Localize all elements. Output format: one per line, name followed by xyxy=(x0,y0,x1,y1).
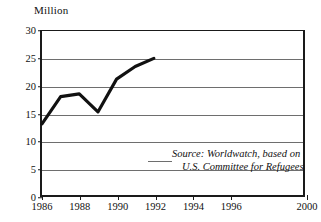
y-tick-label: 5 xyxy=(31,165,36,176)
x-tick-label: 1986 xyxy=(32,201,53,212)
x-tick-label: 1988 xyxy=(69,201,90,212)
y-tick-label: 15 xyxy=(26,109,37,120)
x-tick-mark xyxy=(156,195,157,200)
source-note: Source: Worldwatch, based on U.S. Commit… xyxy=(172,147,312,173)
refugees-series-polyline xyxy=(42,58,154,124)
y-tick-label: 25 xyxy=(26,54,37,65)
source-note-line-1: Source: Worldwatch, based on xyxy=(172,148,300,159)
y-axis-unit-label: Million xyxy=(34,4,68,17)
y-tick-label: 20 xyxy=(26,81,37,92)
refugees-line-chart: Million 051015202530 1986198819901992199… xyxy=(0,0,321,222)
x-tick-label: 2000 xyxy=(297,201,318,212)
y-tick-label: 10 xyxy=(26,137,37,148)
x-tick-label: 1996 xyxy=(221,201,242,212)
x-tick-mark xyxy=(42,195,43,200)
source-note-rule xyxy=(148,161,172,162)
y-tick-label: 30 xyxy=(26,26,37,37)
x-tick-mark xyxy=(231,195,232,200)
x-tick-label: 1994 xyxy=(183,201,204,212)
source-note-line-2: U.S. Committee for Refugees xyxy=(172,160,312,173)
x-tick-mark xyxy=(307,195,308,200)
x-tick-label: 1992 xyxy=(145,201,166,212)
x-tick-mark xyxy=(80,195,81,200)
x-tick-mark xyxy=(193,195,194,200)
x-tick-mark xyxy=(118,195,119,200)
x-tick-label: 1990 xyxy=(107,201,128,212)
